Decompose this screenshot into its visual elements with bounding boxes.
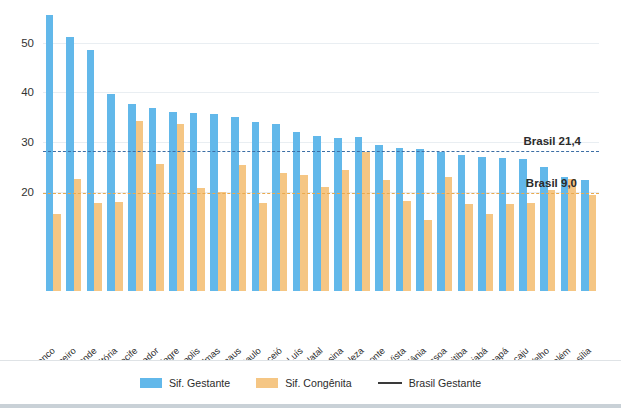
bar-gestante [458, 155, 466, 291]
bar-gestante [313, 136, 321, 291]
bar-group [125, 8, 146, 291]
bar-group [146, 8, 167, 291]
y-tick-label: 50 [8, 37, 34, 49]
legend-swatch-icon [140, 378, 162, 388]
bar-group [249, 8, 270, 291]
bar-gestante [272, 124, 280, 291]
bar-gestante [66, 37, 74, 291]
bar-congenita [403, 201, 411, 291]
bar-congenita [156, 164, 164, 291]
bar-gestante [128, 104, 136, 291]
footer-rule [0, 404, 621, 408]
bar-congenita [362, 152, 370, 291]
bar-group [270, 8, 291, 291]
bar-gestante [190, 113, 198, 291]
legend-swatch-icon [378, 382, 402, 384]
bar-group [537, 8, 558, 291]
bar-congenita [74, 179, 82, 291]
bar-gestante [416, 149, 424, 291]
bar-gestante [334, 138, 342, 291]
plot-area: Brasil 21,4Brasil 9,0 [43, 8, 599, 291]
bar-group [105, 8, 126, 291]
bar-gestante [581, 180, 589, 291]
bar-gestante [87, 50, 95, 291]
bar-gestante [499, 158, 507, 291]
bar-chart: 20304050 Brasil 21,4Brasil 9,0 Rio Branc… [0, 0, 621, 408]
bar-group [517, 8, 538, 291]
bar-congenita [321, 187, 329, 291]
x-axis-labels: Rio BrancoRio de JaneiroCampo GrandeVitó… [43, 293, 599, 355]
bar-group [187, 8, 208, 291]
bar-congenita [115, 202, 123, 291]
bar-gestante [437, 152, 445, 291]
bar-congenita [53, 214, 61, 291]
bar-congenita [568, 179, 576, 291]
bar-congenita [486, 214, 494, 291]
bar-congenita [239, 165, 247, 291]
chart-legend: Sif. GestanteSif. CongênitaBrasil Gestan… [0, 360, 621, 408]
bar-congenita [177, 124, 185, 291]
bar-gestante [375, 145, 383, 291]
bar-gestante [355, 137, 363, 291]
bar-congenita [589, 195, 597, 291]
bar-group [228, 8, 249, 291]
reference-line-congenita [43, 193, 599, 194]
bar-group [43, 8, 64, 291]
bar-congenita [94, 203, 102, 291]
bar-gestante [210, 114, 218, 291]
bar-congenita [548, 190, 556, 291]
bar-group [434, 8, 455, 291]
legend-swatch-icon [256, 378, 278, 388]
bar-group [311, 8, 332, 291]
bar-group [331, 8, 352, 291]
bar-group [84, 8, 105, 291]
reference-line-label: Brasil 21,4 [523, 135, 581, 147]
legend-item[interactable]: Sif. Gestante [140, 377, 230, 389]
bar-congenita [197, 188, 205, 291]
bar-congenita [527, 203, 535, 291]
legend-label: Sif. Congênita [285, 377, 352, 389]
bar-gestante [396, 148, 404, 291]
bar-group [208, 8, 229, 291]
bar-gestante [252, 122, 260, 291]
bar-group [64, 8, 85, 291]
bar-congenita [342, 170, 350, 291]
bar-group [352, 8, 373, 291]
legend-label: Sif. Gestante [169, 377, 230, 389]
bar-group [475, 8, 496, 291]
reference-line-label: Brasil 9,0 [526, 177, 577, 189]
bar-congenita [506, 204, 514, 291]
bar-group [393, 8, 414, 291]
bar-congenita [383, 180, 391, 291]
bar-groups [43, 8, 599, 291]
bar-gestante [169, 112, 177, 291]
bar-gestante [478, 157, 486, 291]
bar-congenita [218, 192, 226, 291]
bar-group [558, 8, 579, 291]
bar-congenita [259, 203, 267, 291]
bar-group [167, 8, 188, 291]
bar-group [373, 8, 394, 291]
bar-gestante [149, 108, 157, 291]
bar-group [578, 8, 599, 291]
legend-item[interactable]: Brasil Gestante [378, 377, 481, 389]
bar-group [455, 8, 476, 291]
bar-congenita [136, 121, 144, 291]
bar-gestante [293, 132, 301, 291]
bar-gestante [46, 15, 54, 291]
y-tick-label: 30 [8, 136, 34, 148]
bar-group [414, 8, 435, 291]
bar-gestante [231, 117, 239, 291]
bar-group [290, 8, 311, 291]
y-tick-label: 20 [8, 186, 34, 198]
bar-congenita [465, 204, 473, 291]
bar-congenita [280, 173, 288, 291]
legend-item[interactable]: Sif. Congênita [256, 377, 352, 389]
bar-group [496, 8, 517, 291]
legend-label: Brasil Gestante [409, 377, 481, 389]
reference-line-gestante [43, 151, 599, 152]
bar-congenita [424, 220, 432, 291]
y-tick-label: 40 [8, 86, 34, 98]
